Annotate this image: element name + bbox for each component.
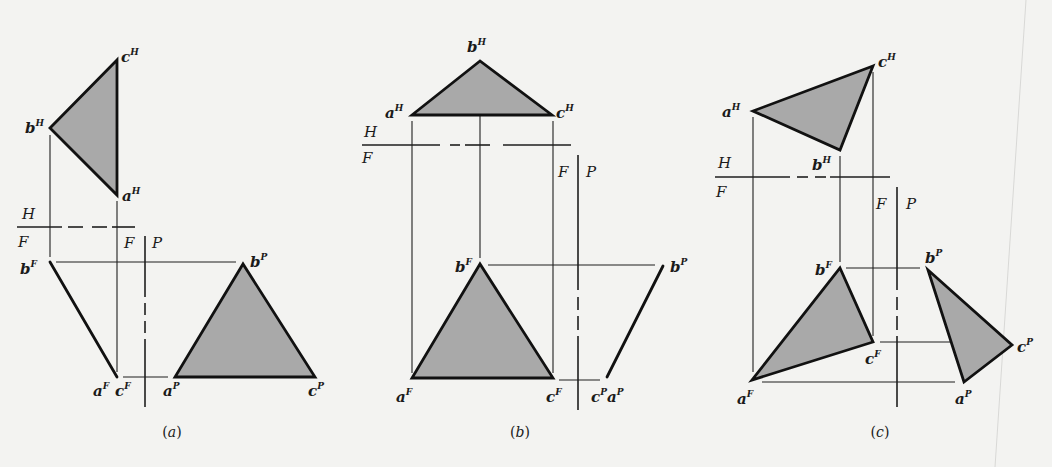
plane-label-h: H (21, 205, 36, 223)
point-label-b-p: bP (670, 257, 688, 276)
plane-label-f: F (557, 163, 569, 181)
plane-label-f: F (123, 234, 135, 252)
point-label-c-p: cP (1017, 337, 1033, 356)
point-label-a-p: aP (955, 389, 972, 408)
plane-label-f: F (17, 233, 29, 251)
point-label-c-f: cF (115, 381, 131, 400)
plane-label-p: P (585, 163, 597, 181)
point-label-a-h: aH (385, 103, 404, 122)
point-label-c-h: cH (556, 103, 574, 122)
point-label-a-h: aH (722, 102, 741, 121)
point-label-b-f: bF (455, 257, 473, 276)
triangle-h-view (50, 60, 117, 195)
point-label-a-f: aF (93, 381, 110, 400)
plane-label-p: P (151, 234, 163, 252)
point-label-a-p: aP (163, 381, 180, 400)
point-label-b-h: bH (25, 118, 45, 137)
plane-label-h: H (363, 123, 378, 141)
triangle-f-view (752, 268, 873, 380)
point-label-b-p: bP (250, 252, 268, 271)
point-label-b-f: bF (20, 259, 38, 278)
point-label-a-f: aF (396, 387, 413, 406)
panel-c: HFFPcHaHbHbFbPcFcPaFaP(c) (715, 52, 1033, 440)
page-edge (995, 0, 1026, 467)
point-label-c-h: cH (878, 52, 896, 71)
plane-label-f: F (715, 183, 727, 201)
point-label-b-p: bP (925, 248, 943, 267)
point-label-b-h: bH (812, 155, 832, 174)
edge-view-f (50, 262, 117, 377)
panel-a: HFFPcHbHaHbFaFcFaPbPcP(a) (17, 47, 324, 440)
triangle-h-view (412, 61, 552, 115)
edge-view-p (607, 266, 663, 377)
plane-label-p: P (905, 195, 917, 213)
point-label-c-h: cH (121, 47, 139, 66)
projection-diagram: HFFPcHbHaHbFaFcFaPbPcP(a)HFFPbHaHcHbFbPa… (0, 0, 1052, 467)
plane-label-f: F (875, 195, 887, 213)
triangle-p-view (928, 270, 1012, 382)
point-label-b-h: bH (467, 37, 487, 56)
panel-caption: (b) (510, 424, 530, 440)
point-label-c-p: cP (591, 387, 607, 406)
point-label-c-f: cF (865, 349, 881, 368)
triangle-p-view (175, 264, 315, 377)
panel-caption: (c) (871, 424, 890, 440)
triangle-f-view (412, 264, 553, 378)
figure-stage: HFFPcHbHaHbFaFcFaPbPcP(a)HFFPbHaHcHbFbPa… (0, 0, 1052, 467)
point-label-a-p: aP (607, 387, 624, 406)
point-label-c-f: cF (546, 387, 562, 406)
point-label-b-f: bF (815, 260, 833, 279)
panel-caption: (a) (162, 424, 181, 440)
point-label-a-h: aH (122, 186, 141, 205)
triangle-h-view (753, 66, 873, 150)
plane-label-f: F (361, 149, 373, 167)
plane-label-h: H (717, 154, 732, 172)
point-label-c-p: cP (308, 381, 324, 400)
point-label-a-f: aF (737, 389, 754, 408)
panel-b: HFFPbHaHcHbFbPaFcFcPaP(b) (361, 37, 688, 440)
